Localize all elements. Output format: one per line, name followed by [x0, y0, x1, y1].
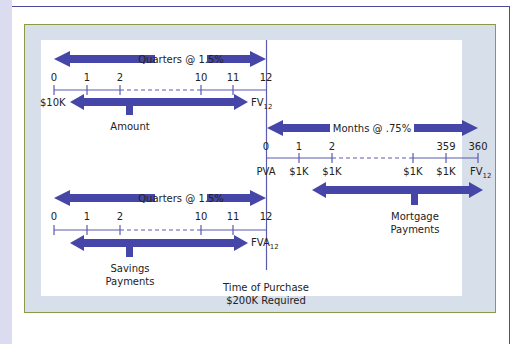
- timeline-diagram: Quarters @ 1.5% 0 1 2 10 11 12 $10K FV12…: [0, 0, 521, 344]
- timeline-axis: [266, 153, 478, 163]
- start-value: $10K: [40, 97, 66, 108]
- tick-label: 12: [260, 72, 273, 83]
- rate-label: Months @ .75%: [333, 123, 411, 134]
- amount-bracket-arrow-icon: [70, 94, 248, 115]
- tick-label: 10: [195, 211, 208, 222]
- tick-label: 10: [195, 72, 208, 83]
- bracket-label: Mortgage: [391, 211, 439, 222]
- tick-label: 2: [329, 141, 335, 152]
- purchase-note-line2: $200K Required: [226, 295, 306, 306]
- end-value: FV12: [470, 166, 492, 180]
- right-timeline: Months @ .75% 0 1 2 359 360 PVA $1K $1K …: [256, 120, 491, 235]
- tick-label: 1: [84, 211, 90, 222]
- tick-label: 359: [436, 141, 455, 152]
- value-label: $1K: [403, 166, 423, 177]
- bracket-label: Amount: [110, 121, 149, 132]
- bracket-label: Payments: [391, 224, 440, 235]
- top-left-timeline: Quarters @ 1.5% 0 1 2 10 11 12 $10K FV12…: [40, 51, 273, 132]
- savings-bracket-arrow-icon: [70, 235, 248, 257]
- timeline-axis: [54, 85, 266, 95]
- value-label: $1K: [322, 166, 342, 177]
- tick-label: 1: [84, 72, 90, 83]
- timeline-axis: [54, 225, 266, 235]
- end-value: FVA12: [251, 237, 279, 251]
- tick-label: 360: [468, 141, 487, 152]
- bottom-left-timeline: Quarters @ 1.5% 0 1 2 10 11 12 FVA12 Sav…: [51, 190, 279, 287]
- tick-label: 0: [51, 211, 57, 222]
- tick-label: 2: [117, 72, 123, 83]
- bracket-label: Savings: [110, 263, 149, 274]
- rate-label: Quarters @ 1.5%: [138, 193, 224, 204]
- rate-label: Quarters @ 1.5%: [138, 54, 224, 65]
- value-label: PVA: [256, 166, 275, 177]
- mortgage-bracket-arrow-icon: [312, 182, 483, 205]
- value-label: $1K: [289, 166, 309, 177]
- tick-label: 1: [296, 141, 302, 152]
- bracket-label: Payments: [106, 276, 155, 287]
- purchase-note: Time of Purchase $200K Required: [222, 282, 309, 306]
- value-label: $1K: [436, 166, 456, 177]
- purchase-note-line1: Time of Purchase: [222, 282, 309, 293]
- end-value: FV12: [251, 97, 273, 111]
- tick-label: 11: [227, 72, 240, 83]
- tick-label: 12: [260, 211, 273, 222]
- tick-label: 0: [263, 141, 269, 152]
- tick-label: 11: [227, 211, 240, 222]
- tick-label: 0: [51, 72, 57, 83]
- tick-label: 2: [117, 211, 123, 222]
